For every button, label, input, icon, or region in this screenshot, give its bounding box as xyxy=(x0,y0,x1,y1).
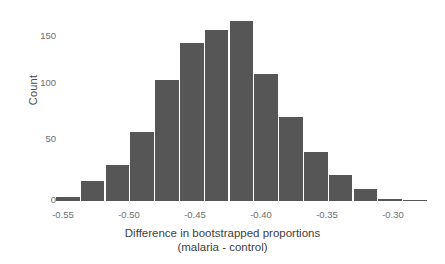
x-axis-tick-5: -0.35 xyxy=(303,209,351,220)
x-axis-tick-4: -0.40 xyxy=(237,209,285,220)
y-axis-tick-50: 50 xyxy=(22,134,56,144)
x-axis-tick-2: -0.50 xyxy=(105,209,153,220)
histogram-bar xyxy=(403,200,427,201)
histogram-bar xyxy=(155,80,179,201)
y-axis-tick-0: 0 xyxy=(22,195,56,205)
histogram-bar xyxy=(354,189,378,201)
histogram-bar xyxy=(130,132,154,201)
histogram-bar xyxy=(230,21,254,201)
histogram-bar xyxy=(279,117,303,201)
x-axis-label-line1: Difference in bootstrapped proportions xyxy=(125,227,320,239)
x-axis-tick-6: -0.30 xyxy=(369,209,417,220)
histogram-bar xyxy=(378,199,402,201)
y-axis-tick-100: 100 xyxy=(22,78,56,88)
histogram-bar xyxy=(106,165,130,201)
x-axis-label-line2: (malaria - control) xyxy=(0,240,445,254)
histogram-bar xyxy=(254,74,278,201)
x-axis-tick-3: -0.45 xyxy=(171,209,219,220)
histogram-figure: Count 150 100 50 0 -0.55 -0.50 -0.45 -0.… xyxy=(0,0,445,264)
histogram-bar xyxy=(56,197,80,201)
histogram-bar xyxy=(180,43,204,201)
histogram-bar xyxy=(81,181,105,201)
histogram-bar xyxy=(304,152,328,201)
histogram-bar xyxy=(205,30,229,201)
y-axis-tick-group: 150 100 50 0 xyxy=(20,0,56,264)
plot-area xyxy=(56,14,428,201)
y-axis-tick-150: 150 xyxy=(22,31,56,41)
x-axis-tick-1: -0.55 xyxy=(39,209,87,220)
histogram-bar xyxy=(329,175,353,201)
x-axis-label: Difference in bootstrapped proportions (… xyxy=(0,226,445,254)
